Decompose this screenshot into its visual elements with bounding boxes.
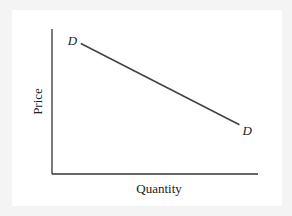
demand-curve xyxy=(81,44,240,125)
demand-chart: Price Quantity DD xyxy=(0,0,292,216)
x-axis-label: Quantity xyxy=(136,181,182,196)
curve-end-label: D xyxy=(241,123,252,138)
y-axis-label: Price xyxy=(30,88,45,115)
curve-start-label: D xyxy=(67,33,78,48)
